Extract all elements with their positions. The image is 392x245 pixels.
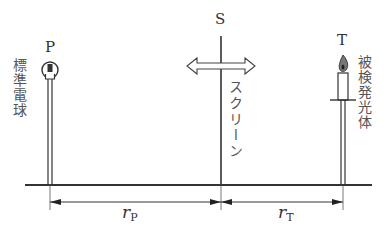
label-rp-symbol: r [122, 202, 130, 222]
label-test-source: 被検発光体 [357, 55, 371, 130]
label-rt-subscript: T [286, 211, 293, 224]
standard-bulb [42, 62, 58, 185]
label-rt: rT [278, 204, 293, 223]
arrowhead-rp-right [210, 199, 221, 205]
label-t: T [337, 33, 347, 48]
wick [342, 65, 345, 70]
candle-body [338, 73, 348, 100]
label-screen: スクリーン [228, 80, 242, 160]
dimension-lines [50, 185, 343, 210]
bulb-socket [46, 74, 55, 79]
label-s: S [215, 12, 225, 27]
label-standard-bulb: 標準電球 [12, 58, 26, 118]
label-rt-symbol: r [278, 202, 286, 222]
screen [187, 36, 255, 185]
label-rp-subscript: P [130, 211, 137, 224]
bulb-filament [48, 64, 53, 72]
arrowhead-rt-right [332, 199, 343, 205]
label-p: P [45, 40, 55, 55]
arrowhead-rp-left [50, 199, 61, 205]
label-rp: rP [122, 204, 138, 223]
photometer-diagram [0, 0, 392, 245]
arrowhead-rt-left [221, 199, 232, 205]
test-source-candle [330, 55, 356, 185]
